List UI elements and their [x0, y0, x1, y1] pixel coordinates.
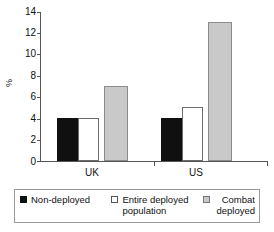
x-tick-label-us: US	[166, 167, 226, 179]
bar-us-combat-deployed	[208, 22, 232, 161]
legend-label-non-deployed: Non-deployed	[31, 194, 90, 205]
legend-item-non-deployed: Non-deployed	[20, 194, 111, 205]
bar-us-entire-deployed	[182, 107, 203, 161]
legend-swatch-combat-deployed-icon	[203, 196, 210, 203]
bar-chart: % 14 12 10 8 6 4 2 0	[0, 0, 274, 232]
legend-label-combat-deployed: Combat deployed	[214, 194, 255, 216]
bar-uk-combat-deployed	[104, 86, 128, 161]
legend-item-entire-deployed: Entire deployed population	[111, 194, 202, 216]
bars-layer	[0, 0, 274, 184]
bar-us-non-deployed	[161, 118, 182, 161]
bar-uk-non-deployed	[57, 118, 78, 161]
legend-item-combat-deployed: Combat deployed	[203, 194, 255, 216]
legend-swatch-entire-deployed-icon	[111, 196, 118, 203]
legend-swatch-non-deployed-icon	[20, 196, 27, 203]
x-tick-label-uk: UK	[62, 167, 122, 179]
bar-uk-entire-deployed	[78, 118, 99, 161]
legend-label-entire-deployed: Entire deployed population	[122, 194, 202, 216]
chart-legend: Non-deployed Entire deployed population …	[14, 189, 260, 223]
plot-area: % 14 12 10 8 6 4 2 0	[0, 0, 274, 184]
